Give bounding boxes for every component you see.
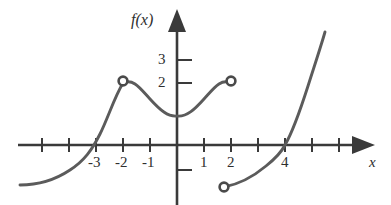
curve-branch-left	[20, 83, 123, 185]
x-axis-arrowhead	[352, 136, 375, 154]
x-tick-label-neg3: -3	[88, 155, 101, 170]
function-graph-figure: f(x) x 3 2 -3 -2 -1 1 2 4	[0, 0, 391, 205]
curve-branch-right	[224, 32, 325, 187]
x-tick-label-neg1: -1	[142, 155, 155, 170]
y-tick-label-2: 2	[158, 75, 166, 90]
x-tick-label-4: 4	[281, 155, 289, 170]
x-tick-label-1: 1	[200, 155, 208, 170]
x-axis-label: x	[369, 155, 376, 170]
plot-canvas	[0, 0, 391, 205]
open-circle-branch-start	[220, 183, 229, 192]
y-axis-arrowhead	[168, 9, 186, 32]
y-tick-label-3: 3	[158, 52, 166, 67]
y-axis-label: f(x)	[131, 12, 153, 28]
open-circle-right-of-middle	[227, 77, 236, 86]
open-circle-left-max	[119, 77, 128, 86]
x-tick-label-neg2: -2	[115, 155, 128, 170]
x-tick-label-2: 2	[227, 155, 235, 170]
